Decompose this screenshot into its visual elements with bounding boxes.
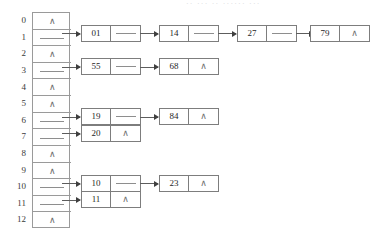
node-next-pointer	[111, 59, 140, 74]
index-label-10: 10	[2, 178, 26, 195]
chain-node-6-0[interactable]: 19	[81, 108, 141, 125]
index-label-6: 6	[2, 112, 26, 129]
index-label-8: 8	[2, 145, 26, 162]
index-label-3: 3	[2, 62, 26, 79]
bucket-cell-9[interactable]: ∧	[33, 163, 71, 180]
index-label-5: 5	[2, 95, 26, 112]
bucket-cell-11[interactable]	[33, 196, 71, 213]
pointer-stub	[116, 33, 136, 34]
node-value: 55	[82, 59, 111, 74]
node-next-pointer	[267, 26, 296, 41]
bucket-cell-8[interactable]: ∧	[33, 146, 71, 163]
chain-node-10-0[interactable]: 10	[81, 175, 141, 192]
arrow-node-6-0-to-6-1	[140, 117, 158, 118]
chain-node-1-2[interactable]: 27	[237, 25, 297, 42]
arrow-bucket11-to-node0	[62, 200, 80, 201]
node-null-terminator: ∧	[189, 59, 218, 74]
chain-node-7-0[interactable]: 20 ∧	[81, 125, 141, 142]
node-value: 27	[238, 26, 267, 41]
index-label-7: 7	[2, 128, 26, 145]
pointer-stub	[40, 187, 64, 188]
bucket-cell-12[interactable]: ∧	[33, 212, 71, 229]
chain-node-1-3[interactable]: 79 ∧	[310, 25, 370, 42]
node-next-pointer	[111, 26, 140, 41]
chain-node-11-0[interactable]: 11 ∧	[81, 191, 141, 208]
pointer-stub	[40, 138, 64, 139]
chain-node-10-1[interactable]: 23 ∧	[159, 175, 219, 192]
arrow-node-3-0-to-3-1	[140, 67, 158, 68]
index-label-1: 1	[2, 29, 26, 46]
null-symbol-icon: ∧	[33, 96, 71, 113]
pointer-stub	[116, 66, 136, 67]
node-next-pointer	[111, 176, 140, 191]
arrow-bucket3-to-node0	[62, 67, 80, 68]
node-null-terminator: ∧	[189, 109, 218, 124]
node-null-terminator: ∧	[189, 176, 218, 191]
arrow-bucket1-to-node0	[62, 33, 80, 34]
null-symbol-icon: ∧	[33, 79, 71, 96]
diagram-canvas: ·· ··· ·· ······ ··· 0 1 2 3 4 5 6 7 8 9…	[0, 0, 376, 239]
node-value: 68	[160, 59, 189, 74]
scan-artifact-text: ·· ··· ·· ······ ···	[186, 0, 261, 8]
pointer-stub	[40, 71, 64, 72]
node-null-terminator: ∧	[111, 126, 140, 141]
index-label-9: 9	[2, 162, 26, 179]
bucket-cell-5[interactable]: ∧	[33, 96, 71, 113]
pointer-stub	[40, 204, 64, 205]
pointer-stub	[116, 183, 136, 184]
bucket-cell-10[interactable]	[33, 179, 71, 196]
chain-node-1-1[interactable]: 14	[159, 25, 219, 42]
node-value: 01	[82, 26, 111, 41]
node-value: 19	[82, 109, 111, 124]
node-value: 20	[82, 126, 111, 141]
node-value: 10	[82, 176, 111, 191]
node-next-pointer	[111, 109, 140, 124]
index-label-0: 0	[2, 12, 26, 29]
pointer-stub	[40, 38, 64, 39]
bucket-array: ∧ ∧ ∧ ∧ ∧ ∧	[32, 12, 70, 228]
index-label-4: 4	[2, 79, 26, 96]
bucket-cell-6[interactable]	[33, 113, 71, 130]
node-null-terminator: ∧	[340, 26, 369, 41]
arrow-bucket7-to-node0	[62, 133, 80, 134]
node-null-terminator: ∧	[111, 192, 140, 207]
pointer-stub	[272, 33, 292, 34]
node-value: 23	[160, 176, 189, 191]
bucket-cell-2[interactable]: ∧	[33, 46, 71, 63]
bucket-cell-4[interactable]: ∧	[33, 79, 71, 96]
arrow-node-1-1-to-1-2	[218, 33, 236, 34]
arrow-node-10-0-to-10-1	[140, 183, 158, 184]
node-value: 84	[160, 109, 189, 124]
arrow-bucket6-to-node0	[62, 117, 80, 118]
bucket-cell-7[interactable]	[33, 129, 71, 146]
arrow-bucket10-to-node0	[62, 183, 80, 184]
null-symbol-icon: ∧	[33, 163, 71, 180]
chain-node-3-1[interactable]: 68 ∧	[159, 58, 219, 75]
index-label-12: 12	[2, 211, 26, 228]
null-symbol-icon: ∧	[33, 13, 71, 30]
node-value: 11	[82, 192, 111, 207]
pointer-stub	[116, 116, 136, 117]
node-value: 79	[311, 26, 340, 41]
null-symbol-icon: ∧	[33, 46, 71, 63]
chain-node-3-0[interactable]: 55	[81, 58, 141, 75]
bucket-cell-0[interactable]: ∧	[33, 13, 71, 30]
pointer-stub	[40, 121, 64, 122]
index-label-11: 11	[2, 195, 26, 212]
chain-node-6-1[interactable]: 84 ∧	[159, 108, 219, 125]
pointer-stub	[194, 33, 214, 34]
index-label-2: 2	[2, 45, 26, 62]
arrow-node-1-0-to-1-1	[140, 33, 158, 34]
bucket-cell-3[interactable]	[33, 63, 71, 80]
node-next-pointer	[189, 26, 218, 41]
null-symbol-icon: ∧	[33, 212, 71, 229]
chain-node-1-0[interactable]: 01	[81, 25, 141, 42]
null-symbol-icon: ∧	[33, 146, 71, 163]
node-value: 14	[160, 26, 189, 41]
bucket-cell-1[interactable]	[33, 30, 71, 47]
